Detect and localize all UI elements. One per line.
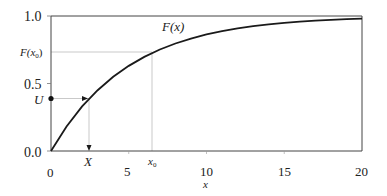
x-X-label: X bbox=[83, 154, 93, 169]
guide-lines bbox=[51, 52, 152, 151]
cdf-curve bbox=[51, 19, 362, 151]
x-tick-label-15: 15 bbox=[278, 164, 291, 179]
u-point-marker bbox=[48, 96, 53, 101]
y-ticks bbox=[47, 16, 51, 151]
x-tick-label-10: 10 bbox=[200, 164, 213, 179]
y-tick-label-0: 0.0 bbox=[24, 145, 42, 160]
x-down-arrow-icon bbox=[87, 145, 92, 151]
x-x0-label: x0 bbox=[147, 155, 157, 169]
y-tick-label-1: 1.0 bbox=[24, 9, 42, 24]
x-axis-label: x bbox=[202, 178, 208, 190]
y-tick-label-0-5: 0.5 bbox=[24, 77, 42, 92]
cdf-chart: 1.0 F(x0) 0.5 U 0.0 X 0 5 x0 10 15 20 x … bbox=[0, 0, 387, 196]
x-tick-label-20: 20 bbox=[355, 164, 368, 179]
x-tick-label-0: 0 bbox=[47, 165, 54, 180]
curve-label: F(x) bbox=[161, 19, 184, 34]
y-u-label: U bbox=[34, 92, 45, 107]
x-tick-label-5: 5 bbox=[124, 164, 131, 179]
plot-frame bbox=[51, 16, 362, 151]
y-fx0-label: F(x0) bbox=[19, 46, 43, 60]
